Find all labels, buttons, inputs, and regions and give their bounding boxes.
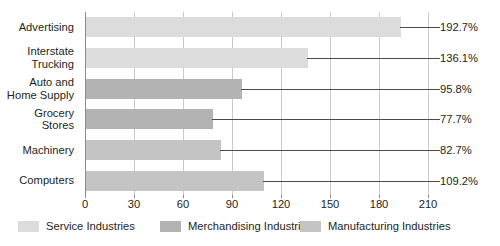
- category-label: Machinery: [22, 144, 74, 157]
- value-label: 82.7%: [440, 144, 472, 156]
- gridline: [183, 12, 184, 196]
- leader-line: [220, 150, 440, 151]
- value-labels: 192.7%136.1%95.8%77.7%82.7%109.2%: [440, 12, 500, 196]
- gridline: [428, 12, 429, 196]
- axis-tick-label: 30: [128, 198, 140, 210]
- category-label: GroceryStores: [34, 107, 74, 132]
- legend-label: Manufacturing Industries: [328, 220, 451, 232]
- axis-tick-label: 180: [370, 198, 389, 210]
- axis-tick-mark: [281, 195, 282, 198]
- bar: [86, 48, 308, 68]
- bar: [86, 171, 264, 191]
- axis-tick-mark: [134, 195, 135, 198]
- category-label: Auto andHome Supply: [7, 76, 74, 101]
- axis-tick-mark: [232, 195, 233, 198]
- axis-tick-mark: [428, 195, 429, 198]
- axis-tick-label: 150: [321, 198, 340, 210]
- axis-tick-label: 120: [272, 198, 291, 210]
- category-axis-labels: AdvertisingInterstateTruckingAuto andHom…: [0, 12, 80, 196]
- value-label: 136.1%: [440, 52, 478, 64]
- axis-tick-label: 0: [82, 198, 88, 210]
- bar: [86, 109, 213, 129]
- gridline: [232, 12, 233, 196]
- value-label: 109.2%: [440, 175, 478, 187]
- legend-item[interactable]: Merchandising Industries: [160, 220, 312, 232]
- legend-swatch: [160, 221, 181, 232]
- leader-line: [212, 119, 440, 120]
- value-label: 77.7%: [440, 113, 472, 125]
- axis-tick-mark: [85, 195, 86, 198]
- bar-chart: AdvertisingInterstateTruckingAuto andHom…: [0, 0, 500, 246]
- value-label: 95.8%: [440, 83, 472, 95]
- leader-line: [241, 89, 440, 90]
- plot-area: [85, 12, 428, 196]
- chart-legend: Service IndustriesMerchandising Industri…: [0, 220, 500, 240]
- category-label: Advertising: [19, 21, 74, 34]
- legend-item[interactable]: Service Industries: [18, 220, 135, 232]
- gridline: [330, 12, 331, 196]
- axis-tick-mark: [330, 195, 331, 198]
- leader-line: [307, 58, 440, 59]
- legend-label: Merchandising Industries: [188, 220, 312, 232]
- gridline: [379, 12, 380, 196]
- legend-swatch: [18, 221, 39, 232]
- axis-tick-label: 60: [177, 198, 189, 210]
- bar: [86, 79, 242, 99]
- leader-line: [263, 181, 440, 182]
- axis-tick-label: 210: [419, 198, 438, 210]
- bar: [86, 17, 401, 37]
- value-axis-line: [85, 12, 86, 196]
- legend-label: Service Industries: [46, 220, 135, 232]
- axis-tick-mark: [379, 195, 380, 198]
- value-label: 192.7%: [440, 21, 478, 33]
- gridline: [134, 12, 135, 196]
- axis-tick-mark: [183, 195, 184, 198]
- value-axis-tick-labels: 0306090120150180210: [85, 198, 428, 214]
- leader-line: [400, 27, 440, 28]
- legend-swatch: [300, 221, 321, 232]
- category-label: Computers: [19, 174, 74, 187]
- axis-tick-label: 90: [226, 198, 238, 210]
- category-label: InterstateTrucking: [27, 45, 74, 70]
- gridline: [281, 12, 282, 196]
- bar: [86, 140, 221, 160]
- legend-item[interactable]: Manufacturing Industries: [300, 220, 451, 232]
